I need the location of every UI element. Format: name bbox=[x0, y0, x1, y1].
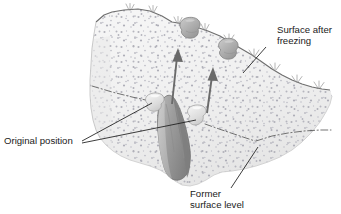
soil-left-shade bbox=[90, 36, 112, 150]
grass-tuft bbox=[314, 81, 324, 88]
label-surface-after-freezing-line1: Surface after bbox=[277, 24, 333, 35]
surface-boulder-left bbox=[180, 17, 200, 38]
label-former-surface-line2: surface level bbox=[190, 199, 244, 210]
label-original-position: Original position bbox=[4, 135, 73, 146]
surface-boulder-right bbox=[219, 38, 238, 59]
label-former-surface-line1: Former bbox=[190, 188, 222, 199]
frost-heave-diagram: Surface after freezing Original position… bbox=[0, 0, 341, 214]
diagram-canvas: Surface after freezing Original position… bbox=[0, 0, 341, 214]
label-surface-after-freezing-line2: freezing bbox=[277, 35, 311, 46]
